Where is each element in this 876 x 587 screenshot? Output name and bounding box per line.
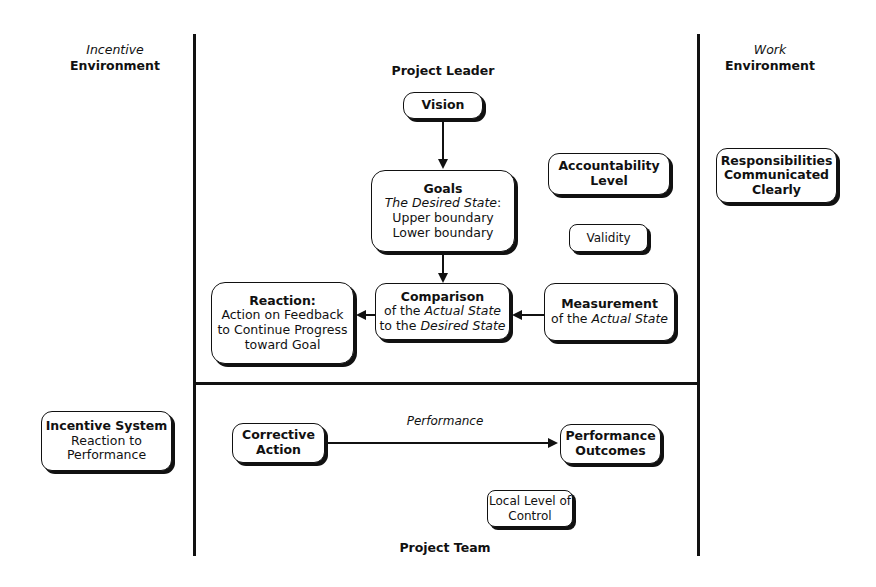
measurement-to-comparison-arrow-line [520,314,544,316]
work-environment-heading: Work Environment [720,42,820,73]
incentive-system-line2: Reaction to [71,434,142,449]
goals-to-comparison-arrowhead-icon [438,273,448,283]
goals-upper-boundary: Upper boundary [392,211,493,226]
measurement-node: Measurement of the Actual State [544,283,675,341]
goals-lower-boundary: Lower boundary [393,226,494,241]
comparison-desired-state: to the Desired State [379,319,505,334]
work-environment-line1: Work [720,42,820,58]
vision-to-goals-arrow-line [442,121,444,161]
work-environment-line2: Environment [720,58,820,74]
project-leader-heading: Project Leader [383,63,503,79]
comparison-actual-state: of the Actual State [384,304,501,319]
local-control-line2: Control [508,509,551,523]
accountability-line1: Accountability [558,159,659,174]
goals-node: Goals The Desired State: Upper boundary … [371,170,515,252]
corrective-to-outcomes-arrowhead-icon [548,438,558,448]
accountability-level-node: Accountability Level [548,153,670,195]
corrective-action-node: Corrective Action [232,423,325,463]
incentive-environment-line1: Incentive [55,42,175,58]
performance-outcomes-line1: Performance [565,429,655,444]
right-divider-line [697,34,700,556]
goals-title: Goals [423,182,462,197]
validity-title: Validity [586,231,630,245]
local-level-of-control-node: Local Level of Control [487,490,573,527]
validity-node: Validity [569,224,648,252]
comparison-title: Comparison [401,290,485,305]
incentive-system-node: Incentive System Reaction to Performance [41,411,172,471]
corrective-action-line1: Corrective [242,428,315,443]
reaction-line3: to Continue Progress [217,323,347,338]
responsibilities-line2: Communicated [724,168,829,183]
incentive-system-title: Incentive System [46,419,168,434]
incentive-system-line3: Performance [67,448,146,463]
responsibilities-node: Responsibilities Communicated Clearly [716,148,837,203]
leader-team-divider-line [193,382,700,385]
vision-node: Vision [403,92,483,119]
incentive-environment-heading: Incentive Environment [55,42,175,73]
goals-to-comparison-arrow-line [442,255,444,275]
corrective-action-line2: Action [256,443,301,458]
vision-to-goals-arrowhead-icon [438,159,448,169]
reaction-line2: Action on Feedback [221,308,343,323]
corrective-to-outcomes-arrow-line [327,442,550,444]
left-divider-line [193,34,196,556]
performance-outcomes-node: Performance Outcomes [560,424,661,464]
comparison-to-reaction-arrowhead-icon [356,310,366,320]
performance-outcomes-line2: Outcomes [575,444,645,459]
comparison-node: Comparison of the Actual State to the De… [375,283,510,340]
reaction-title: Reaction: [249,294,316,309]
performance-edge-label: Performance [400,414,490,428]
measurement-to-comparison-arrowhead-icon [512,310,522,320]
responsibilities-line3: Clearly [752,183,801,198]
measurement-title: Measurement [561,297,658,312]
reaction-node: Reaction: Action on Feedback to Continue… [211,282,354,364]
project-team-heading: Project Team [385,540,505,556]
local-control-line1: Local Level of [489,494,571,508]
vision-title: Vision [422,98,465,113]
reaction-line4: toward Goal [245,338,321,353]
responsibilities-line1: Responsibilities [721,154,833,169]
accountability-line2: Level [590,174,627,189]
incentive-environment-line2: Environment [55,58,175,74]
measurement-actual-state: of the Actual State [551,312,668,327]
goals-desired-state: The Desired State: [385,196,502,211]
